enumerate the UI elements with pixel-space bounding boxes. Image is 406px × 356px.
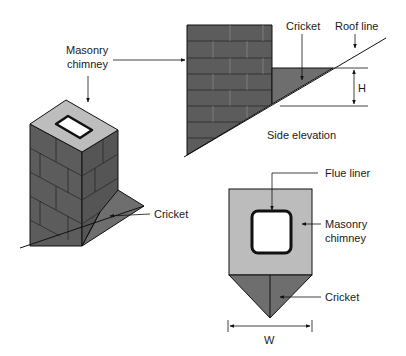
width-label: W	[264, 334, 275, 346]
side-elevation-label: Side elevation	[267, 129, 336, 141]
cricket-side-shape	[272, 68, 333, 104]
cricket-plan-label: Cricket	[325, 291, 359, 303]
roof-line-label: Roof line	[335, 20, 378, 32]
isometric-chimney	[20, 100, 144, 248]
flue-liner-shape	[252, 211, 291, 253]
cricket-side-label: Cricket	[286, 20, 320, 32]
plan-view	[228, 189, 312, 332]
masonry-chimney-label: Masonry	[66, 44, 109, 56]
height-label: H	[358, 82, 366, 94]
masonry-chimney-label-2: chimney	[67, 58, 108, 70]
plan-chimney-label: Masonry	[325, 218, 368, 230]
plan-chimney-label-2: chimney	[325, 232, 366, 244]
cricket-iso-label: Cricket	[154, 208, 188, 220]
flue-liner-label: Flue liner	[325, 167, 371, 179]
chimney-cricket-diagram: Masonry chimney Cricket	[0, 0, 406, 356]
